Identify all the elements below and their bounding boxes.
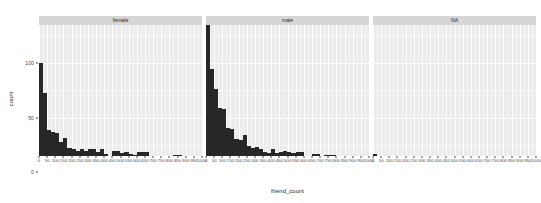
- facet-plot-area: [206, 25, 369, 156]
- x-axis: 0501001502002503003504004505005506006507…: [206, 156, 369, 172]
- facet-plot-area: [39, 25, 202, 156]
- x-axis-tick-label: 350: [92, 159, 99, 163]
- x-axis-tick-label: 800: [500, 159, 507, 163]
- x-axis-tick-label: 850: [508, 159, 515, 163]
- y-axis-ticks: 050100: [16, 0, 38, 203]
- x-axis-tick-label: 550: [125, 159, 132, 163]
- y-axis-tick-label: 50: [28, 115, 34, 121]
- facet-strip-label: male: [206, 16, 369, 25]
- x-axis-tick-label: 150: [394, 159, 401, 163]
- x-axis-tick-label: 700: [149, 159, 156, 163]
- x-axis-tick-label: 400: [101, 159, 108, 163]
- x-axis-tick-label: 300: [251, 159, 258, 163]
- facet-panel-na: NA05010015020025030035040045050055060065…: [373, 16, 536, 172]
- x-axis-tick-label: 0: [205, 159, 207, 163]
- facet-strip-label: female: [39, 16, 202, 25]
- x-axis-tick-label: 350: [259, 159, 266, 163]
- x-axis-tick-label: 50: [212, 159, 217, 163]
- x-axis-tick-label: 750: [492, 159, 499, 163]
- x-axis-tick-label: 0: [372, 159, 374, 163]
- x-axis-tick-label: 550: [459, 159, 466, 163]
- x-axis: 0501001502002503003504004505005506006507…: [39, 156, 202, 172]
- x-axis-tick-label: 300: [84, 159, 91, 163]
- x-axis-tick-label: 600: [133, 159, 140, 163]
- x-axis-tick-label: 650: [308, 159, 315, 163]
- x-axis-tick-label: 450: [276, 159, 283, 163]
- x-axis-tick-label: 600: [467, 159, 474, 163]
- x-axis-tick-label: 500: [451, 159, 458, 163]
- histogram-bars: [206, 25, 369, 156]
- y-axis-tick-label: 0: [31, 169, 34, 175]
- x-axis-tick-label: 850: [341, 159, 348, 163]
- x-axis-tick-label: 850: [174, 159, 181, 163]
- x-axis-tick-label: 200: [402, 159, 409, 163]
- x-axis-tick-label: 1000: [531, 159, 541, 163]
- x-axis-tick-label: 700: [316, 159, 323, 163]
- x-axis-tick-label: 50: [45, 159, 50, 163]
- x-axis-tick-label: 50: [379, 159, 384, 163]
- x-axis-tick-label: 400: [268, 159, 275, 163]
- x-axis-tick-label: 450: [109, 159, 116, 163]
- x-axis-tick-label: 100: [219, 159, 226, 163]
- x-axis-tick-label: 750: [325, 159, 332, 163]
- y-axis-tick-mark: [36, 63, 38, 64]
- x-axis-tick-label: 450: [443, 159, 450, 163]
- x-axis-tick-label: 200: [235, 159, 242, 163]
- x-axis: 0501001502002503003504004505005506006507…: [373, 156, 536, 172]
- y-axis-title-text: count: [8, 75, 14, 123]
- x-axis-tick-label: 250: [410, 159, 417, 163]
- x-axis-tick-label: 800: [333, 159, 340, 163]
- x-axis-tick-label: 150: [227, 159, 234, 163]
- x-axis-title: friend_count: [39, 188, 536, 194]
- histogram-bars: [373, 25, 536, 156]
- x-axis-tick-label: 350: [426, 159, 433, 163]
- x-axis-tick-label: 650: [141, 159, 148, 163]
- facet-panel-male: male050100150200250300350400450500550600…: [206, 16, 369, 172]
- y-axis-tick-mark: [36, 117, 38, 118]
- x-axis-tick-label: 0: [38, 159, 40, 163]
- x-axis-tick-label: 750: [158, 159, 165, 163]
- x-axis-tick-label: 150: [60, 159, 67, 163]
- y-axis-tick-label: 100: [25, 60, 34, 66]
- facet-panel-female: female0501001502002503003504004505005506…: [39, 16, 202, 172]
- x-axis-tick-label: 500: [284, 159, 291, 163]
- y-axis-tick-mark: [36, 172, 38, 173]
- x-axis-tick-label: 100: [386, 159, 393, 163]
- x-axis-tick-label: 300: [418, 159, 425, 163]
- facet-row: female0501001502002503003504004505005506…: [39, 16, 536, 172]
- x-axis-tick-label: 900: [516, 159, 523, 163]
- x-axis-tick-label: 250: [76, 159, 83, 163]
- x-axis-tick-label: 500: [117, 159, 124, 163]
- x-axis-tick-label: 900: [182, 159, 189, 163]
- x-axis-tick-label: 100: [52, 159, 59, 163]
- x-axis-tick-label: 600: [300, 159, 307, 163]
- x-axis-tick-label: 800: [166, 159, 173, 163]
- x-axis-tick-label: 900: [349, 159, 356, 163]
- x-axis-tick-label: 550: [292, 159, 299, 163]
- facet-strip-label: NA: [373, 16, 536, 25]
- facet-plot-area: [373, 25, 536, 156]
- x-axis-tick-label: 400: [435, 159, 442, 163]
- x-axis-tick-label: 250: [243, 159, 250, 163]
- histogram-bars: [39, 25, 202, 156]
- x-axis-tick-label: 200: [68, 159, 75, 163]
- x-axis-tick-label: 700: [483, 159, 490, 163]
- x-axis-tick-label: 650: [475, 159, 482, 163]
